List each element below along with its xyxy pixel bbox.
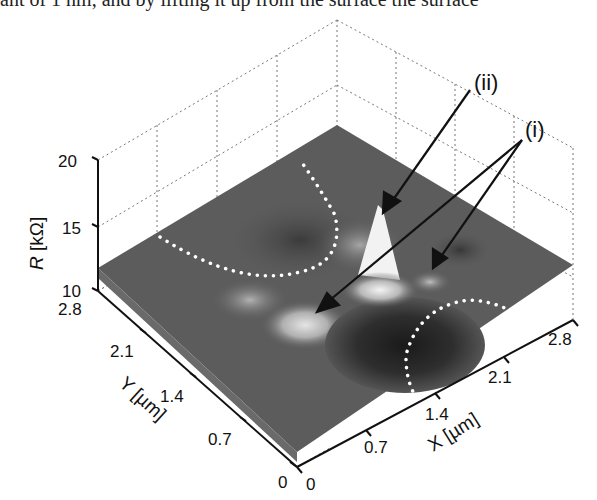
annotation-ii: (ii) bbox=[474, 70, 498, 95]
x-tick-0: 0 bbox=[306, 475, 315, 494]
z-tick-20: 20 bbox=[58, 152, 77, 171]
y-tick-2.8: 2.8 bbox=[58, 300, 82, 319]
y-tick-2.1: 2.1 bbox=[110, 342, 134, 361]
annotation-i: (i) bbox=[525, 117, 545, 142]
x-tick-1.4: 1.4 bbox=[425, 405, 449, 424]
surface bbox=[98, 125, 573, 462]
y-tick-0: 0 bbox=[278, 473, 287, 492]
z-axis-label-symbol: R bbox=[26, 256, 47, 270]
surface-plot: 20 15 10 R [kΩ] 2.8 2.1 1.4 0.7 0 Y [µm]… bbox=[0, 0, 597, 500]
z-tick-10: 10 bbox=[62, 282, 81, 301]
x-tick-2.1: 2.1 bbox=[488, 368, 512, 387]
x-tick-2.8: 2.8 bbox=[548, 330, 572, 349]
z-axis-label: R [kΩ] bbox=[26, 217, 47, 270]
z-axis-label-unit: [kΩ] bbox=[26, 217, 47, 257]
y-tick-0.7: 0.7 bbox=[208, 430, 232, 449]
z-tick-15: 15 bbox=[62, 219, 81, 238]
x-tick-0.7: 0.7 bbox=[364, 438, 388, 457]
